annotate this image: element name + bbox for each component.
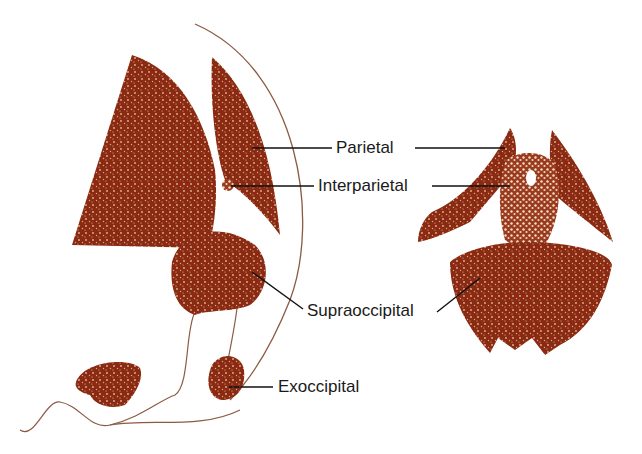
- label-interparietal: Interparietal: [318, 177, 408, 194]
- parietal-bone-right-posterior: [550, 130, 613, 242]
- label-exoccipital: Exoccipital: [278, 378, 359, 395]
- interparietal-bone: [222, 179, 234, 191]
- occipital-diagram: Parietal Interparietal Supraoccipital Ex…: [0, 0, 642, 454]
- posterior-view: [418, 128, 613, 355]
- supraoccipital-bone-posterior: [450, 242, 612, 355]
- exoccipital-bone-left: [76, 362, 141, 407]
- label-parietal: Parietal: [336, 139, 394, 156]
- parietal-bone: [212, 57, 280, 235]
- exoccipital-bone: [208, 356, 244, 400]
- label-supraoccipital: Supraoccipital: [307, 302, 414, 319]
- lateral-view: [20, 24, 303, 432]
- supraoccipital-bone: [171, 231, 265, 315]
- interparietal-bone-posterior: [500, 153, 559, 248]
- parietal-bone-large: [72, 55, 216, 248]
